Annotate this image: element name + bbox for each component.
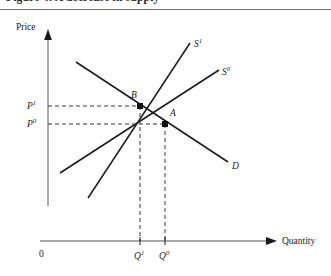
curve-label-d-base: D: [232, 161, 239, 171]
y-axis-arrowhead: [44, 29, 52, 40]
price-tick-p1: P1: [27, 100, 36, 112]
y-axis-label: Price: [16, 23, 36, 33]
curve-label-s0: S0: [222, 66, 230, 78]
point-label-b: B: [131, 91, 137, 101]
x-axis-label: Quantity: [282, 237, 315, 247]
supply-demand-diagram: Price Quantity 0 P1 P0 Q1 Q0 S1 S0 D B A: [0, 10, 331, 276]
quantity-tick-q1-base: Q: [134, 251, 141, 261]
quantity-tick-q0-exp: 0: [166, 249, 169, 256]
point-marker-a: [162, 121, 168, 127]
curve-label-s1-exp: 1: [199, 37, 202, 44]
point-marker-b: [137, 103, 143, 109]
quantity-tick-q0: Q0: [159, 250, 169, 262]
figure-caption: Figure 4: A decrease in supply: [6, 0, 160, 3]
quantity-tick-q0-base: Q: [159, 251, 166, 261]
figure-caption-strip: Figure 4: A decrease in supply: [0, 0, 331, 9]
origin-label: 0: [39, 250, 44, 260]
curve-label-s0-exp: 0: [227, 65, 230, 72]
price-tick-p1-exp: 1: [33, 99, 36, 106]
quantity-tick-q1: Q1: [134, 250, 144, 262]
price-tick-p0-exp: 0: [33, 117, 36, 124]
supply-curve-s1: [88, 43, 190, 198]
curve-label-d: D: [232, 160, 239, 172]
quantity-tick-q1-exp: 1: [141, 249, 144, 256]
figure-page: Figure 4: A decrease in supply: [0, 0, 331, 276]
point-label-a: A: [170, 109, 176, 119]
curve-label-s1: S1: [194, 38, 202, 50]
price-tick-p0: P0: [27, 118, 36, 130]
x-axis-arrowhead: [266, 237, 277, 245]
